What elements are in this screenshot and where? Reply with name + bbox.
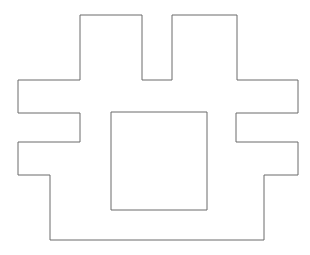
figure-canvas: Rectilinear polygon outline Symmetric ca… xyxy=(0,0,310,255)
polygon-outline-figure: Rectilinear polygon outline Symmetric ca… xyxy=(0,0,310,255)
center-square-hole-polygon xyxy=(111,112,207,210)
